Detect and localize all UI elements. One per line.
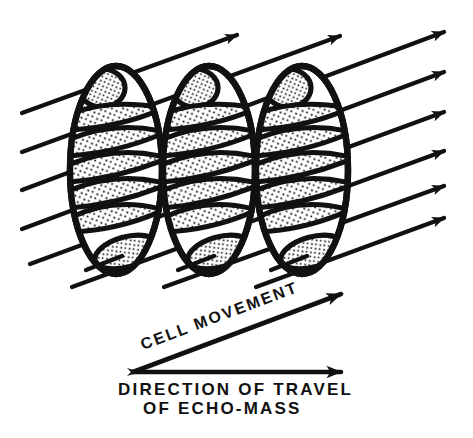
diagram-canvas: CELL MOVEMENT DIRECTION OF TRAVEL OF ECH…	[0, 0, 473, 438]
direction-label-line-2: OF ECHO-MASS	[143, 399, 302, 418]
figure-container: CELL MOVEMENT DIRECTION OF TRAVEL OF ECH…	[0, 0, 473, 438]
direction-label-line-1: DIRECTION OF TRAVEL	[118, 380, 353, 399]
